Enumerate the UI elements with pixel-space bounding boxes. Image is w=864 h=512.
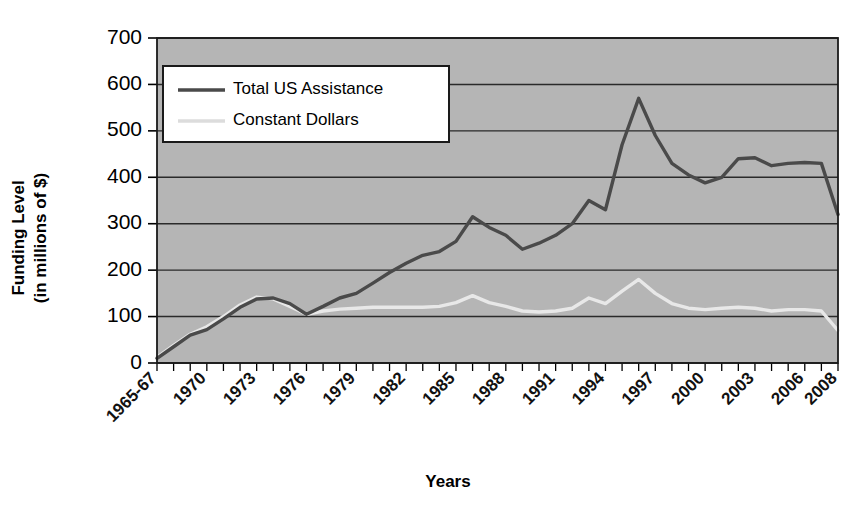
- legend-label-0: Total US Assistance: [233, 79, 383, 98]
- y-axis-title-line1: Funding Level: [9, 180, 28, 295]
- y-tick-label: 100: [107, 303, 142, 326]
- chart-figure: 0100200300400500600700 1965-671970197319…: [0, 0, 864, 512]
- y-tick-label: 300: [107, 210, 142, 233]
- legend-label-1: Constant Dollars: [233, 110, 359, 129]
- y-tick-label: 400: [107, 164, 142, 187]
- y-tick-label: 500: [107, 117, 142, 140]
- legend-background: [163, 66, 449, 142]
- legend: Total US AssistanceConstant Dollars: [163, 66, 449, 142]
- y-tick-label: 600: [107, 71, 142, 94]
- y-tick-label: 700: [107, 25, 142, 48]
- y-axis-title-line2: (in millions of $): [31, 173, 50, 303]
- y-tick-label: 200: [107, 257, 142, 280]
- x-axis-title: Years: [425, 472, 470, 491]
- funding-level-line-chart: 0100200300400500600700 1965-671970197319…: [0, 0, 864, 512]
- y-tick-label: 0: [130, 350, 142, 373]
